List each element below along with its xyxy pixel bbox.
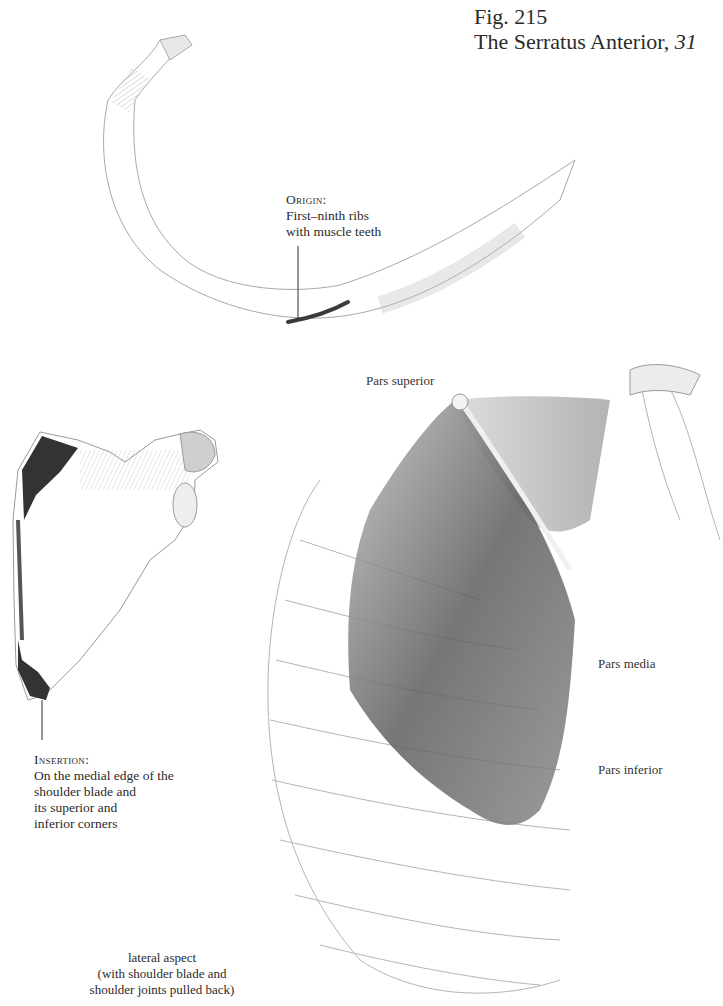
caption-line: lateral aspect — [60, 950, 264, 966]
origin-heading: Origin: — [286, 192, 381, 208]
rib-drawing — [104, 35, 575, 322]
figure-title-text: The Serratus Anterior, — [474, 29, 669, 54]
pars-superior-label: Pars superior — [366, 373, 434, 389]
figure-number: Fig. 215 — [474, 4, 697, 29]
insertion-heading: Insertion: — [34, 752, 174, 768]
figure-caption: lateral aspect (with shoulder blade and … — [60, 950, 264, 998]
caption-line: shoulder joints pulled back) — [60, 982, 264, 998]
insertion-annotation: Insertion: On the medial edge of the sho… — [34, 752, 174, 832]
origin-line: First–ninth ribs — [286, 208, 381, 224]
figure-title-number: 31 — [675, 29, 697, 54]
figure-title: The Serratus Anterior, 31 — [474, 29, 697, 54]
pars-media-label: Pars media — [598, 656, 655, 672]
scapula-drawing — [13, 430, 218, 740]
insertion-line: its superior and — [34, 800, 174, 816]
origin-line: with muscle teeth — [286, 224, 381, 240]
insertion-line: inferior corners — [34, 816, 174, 832]
insertion-line: shoulder blade and — [34, 784, 174, 800]
pars-inferior-label: Pars inferior — [598, 762, 663, 778]
figure-header: Fig. 215 The Serratus Anterior, 31 — [474, 4, 697, 54]
caption-line: (with shoulder blade and — [60, 966, 264, 982]
anatomical-illustration — [0, 0, 723, 1006]
origin-annotation: Origin: First–ninth ribs with muscle tee… — [286, 192, 381, 240]
insertion-line: On the medial edge of the — [34, 768, 174, 784]
ribcage-serratus-drawing — [268, 365, 720, 994]
